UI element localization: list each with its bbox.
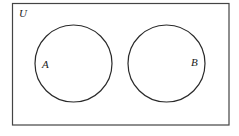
venn-diagram: U A B [0,0,239,136]
set-a-label: A [41,58,49,70]
set-b-label: B [191,56,198,68]
venn-svg: U A B [0,0,239,136]
universe-label: U [19,7,28,19]
